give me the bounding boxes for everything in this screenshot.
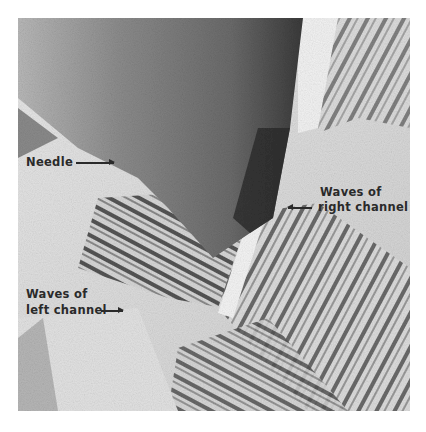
left-channel-arrow-icon xyxy=(101,310,123,312)
right-channel-arrow-icon xyxy=(288,207,312,209)
needle-label: Needle xyxy=(26,155,73,169)
right-channel-label-line2: right channel xyxy=(318,200,408,214)
left-channel-label-line1: Waves of xyxy=(26,287,87,301)
right-channel-label-line1: Waves of xyxy=(320,185,381,199)
needle-arrow-icon xyxy=(76,162,114,164)
left-channel-label-line2: left channel xyxy=(26,303,107,317)
micrograph-image xyxy=(18,18,410,411)
groove-micrograph xyxy=(18,18,410,411)
